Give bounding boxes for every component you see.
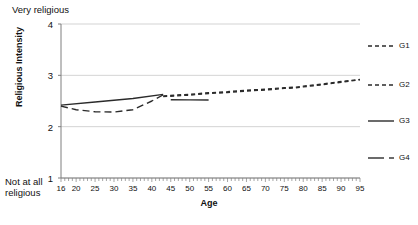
legend-label-G4: G4	[399, 153, 410, 162]
y-tick-label-1: 1	[37, 173, 53, 184]
legend-swatch-G4	[368, 154, 398, 162]
legend-label-G1: G1	[399, 41, 410, 50]
series-line-G1	[163, 79, 360, 95]
y-tick-label-4: 4	[37, 19, 53, 30]
y-tick-label-3: 3	[37, 70, 53, 81]
legend-label-G2: G2	[399, 80, 410, 89]
legend-swatch-G2	[368, 81, 398, 89]
legend-label-G3: G3	[399, 116, 410, 125]
legend-swatch-G1	[368, 42, 398, 50]
religious-intensity-chart: Very religious Not at all religious Reli…	[0, 0, 418, 225]
legend-swatch-G3	[368, 117, 398, 125]
x-tick-label-95: 95	[349, 184, 371, 193]
y-tick-label-2: 2	[37, 122, 53, 133]
